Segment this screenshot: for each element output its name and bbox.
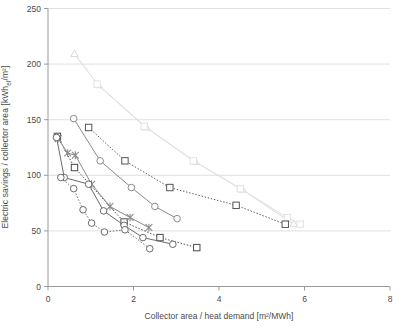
data-point-square [71, 164, 77, 170]
data-point-square [297, 221, 303, 227]
data-point-square [85, 124, 91, 130]
plot-canvas: 05010015020025002468 [0, 0, 407, 330]
y-tick-label: 50 [32, 226, 42, 236]
data-point-square [282, 221, 288, 227]
x-tick-label: 2 [131, 294, 136, 304]
y-axis-label: Electric savings / collector area [kWhel… [0, 2, 14, 292]
data-point-cross [107, 203, 114, 211]
data-point-circle [53, 134, 60, 141]
series-6-cross [55, 135, 152, 232]
x-tick-label: 4 [217, 294, 222, 304]
series-2-square-light [94, 81, 303, 228]
data-point-circle [85, 181, 92, 188]
tick-labels: 05010015020025002468 [27, 4, 393, 304]
y-tick-label: 0 [36, 282, 41, 292]
data-point-circle [58, 174, 65, 181]
series-line [97, 84, 300, 224]
data-series-layer [53, 50, 303, 252]
data-point-square [194, 244, 200, 250]
series-line [75, 54, 294, 224]
y-tick-label: 250 [27, 4, 41, 14]
data-point-square [237, 185, 243, 191]
grid-lines [48, 9, 390, 231]
x-tick-label: 0 [46, 294, 51, 304]
chart-figure: Electric savings / collector area [kWhel… [0, 0, 407, 330]
data-point-square [190, 158, 196, 164]
data-point-square [167, 184, 173, 190]
x-tick-label: 8 [388, 294, 393, 304]
series-3-square-dark [85, 124, 288, 227]
y-tick-label: 150 [27, 115, 41, 125]
series-4-circle-mid [70, 115, 180, 222]
data-point-cross [64, 149, 71, 157]
data-point-circle [152, 203, 159, 210]
y-tick-label: 100 [27, 170, 41, 180]
data-point-circle [100, 208, 107, 215]
data-point-circle [70, 185, 77, 192]
y-axis-label-post: /m²] [0, 66, 10, 81]
data-point-square [122, 158, 128, 164]
data-point-triangle [71, 50, 78, 56]
y-axis-label-pre: Electric savings / collector area [kWh [0, 86, 10, 229]
data-point-circle [88, 220, 95, 227]
x-tick-label: 6 [302, 294, 307, 304]
series-5-square-small-dark [54, 133, 200, 251]
data-point-circle [140, 234, 147, 241]
data-point-square [157, 234, 163, 240]
y-tick-label: 200 [27, 59, 41, 69]
data-point-square [233, 202, 239, 208]
axis-lines [44, 9, 390, 291]
data-point-circle [128, 184, 135, 191]
data-point-cross [145, 224, 152, 232]
data-point-circle [80, 206, 87, 213]
data-point-circle [174, 215, 181, 222]
data-point-circle [122, 226, 129, 233]
series-line [74, 119, 177, 219]
data-point-circle [146, 245, 153, 252]
data-point-circle [101, 229, 108, 236]
data-point-circle [97, 158, 104, 165]
data-point-cross [127, 214, 134, 222]
data-point-square [284, 214, 290, 220]
y-axis-label-sub: el [5, 81, 12, 86]
data-point-circle [170, 241, 177, 248]
x-axis-label: Collector area / heat demand [m²/MWh] [48, 311, 390, 321]
data-point-square [94, 81, 100, 87]
data-point-circle [70, 115, 77, 122]
data-point-square [141, 123, 147, 129]
data-point-cross [72, 151, 79, 159]
